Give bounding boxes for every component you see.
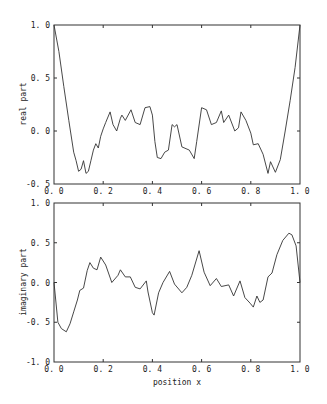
x-tick-label: 0. 2 xyxy=(94,187,113,196)
y-tick-label: -0. 5 xyxy=(26,180,50,189)
real-part-plot: 0. 00. 20. 40. 60. 81. 0-0. 50. 00. 51. … xyxy=(19,21,310,196)
imaginary-part-plot: 0. 00. 20. 40. 60. 81. 0-1. 0-0. 50. 00.… xyxy=(19,199,310,387)
y-tick-label: 0. 5 xyxy=(31,239,50,248)
x-tick-label: 1. 0 xyxy=(290,187,309,196)
x-tick-label: 0. 6 xyxy=(192,187,211,196)
bottom-plot-ticks xyxy=(54,203,300,362)
y-tick-label: 0. 0 xyxy=(31,127,50,136)
bottom-y-axis-label: imaginary part xyxy=(19,248,28,316)
x-tick-label: 0. 8 xyxy=(241,365,260,374)
x-tick-label: 1. 0 xyxy=(290,365,309,374)
y-tick-label: -1. 0 xyxy=(26,358,50,367)
y-tick-label: -0. 5 xyxy=(26,318,50,327)
x-tick-label: 0. 4 xyxy=(143,365,162,374)
figure: 0. 00. 20. 40. 60. 81. 0-0. 50. 00. 51. … xyxy=(0,0,327,404)
x-tick-label: 0. 6 xyxy=(192,365,211,374)
bottom-plot-frame xyxy=(54,203,300,362)
y-tick-label: 0. 0 xyxy=(31,279,50,288)
y-tick-label: 1. 0 xyxy=(31,199,50,208)
x-axis-label: position x xyxy=(153,378,201,387)
bottom-plot-tick-labels: 0. 00. 20. 40. 60. 81. 0-1. 0-0. 50. 00.… xyxy=(26,199,310,374)
y-tick-label: 1. 0 xyxy=(31,21,50,30)
y-tick-label: 0. 5 xyxy=(31,74,50,83)
x-tick-label: 0. 2 xyxy=(94,365,113,374)
x-tick-label: 0. 8 xyxy=(241,187,260,196)
imaginary-part-curve xyxy=(54,233,300,332)
top-y-axis-label: real part xyxy=(19,82,28,126)
x-tick-label: 0. 4 xyxy=(143,187,162,196)
real-part-curve xyxy=(54,25,300,173)
